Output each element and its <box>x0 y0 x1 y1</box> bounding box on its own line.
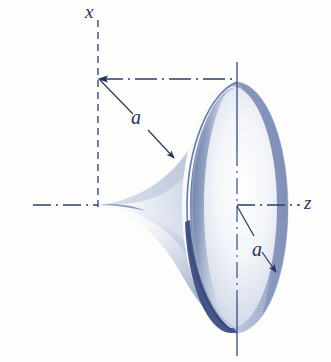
dimension-label-a-lower: a <box>252 239 262 259</box>
z-axis-label: z <box>304 193 311 212</box>
diagram-svg <box>0 0 331 362</box>
horn-surface <box>99 82 288 333</box>
x-axis-label: x <box>85 2 93 21</box>
figure-canvas: x z a a <box>0 0 331 362</box>
dimension-arrow-a-upper-head <box>148 130 174 158</box>
dimension-arrow-a-upper-tail <box>100 80 133 114</box>
dimension-label-a-upper: a <box>131 107 141 127</box>
